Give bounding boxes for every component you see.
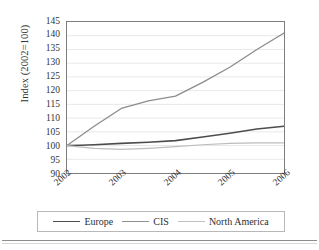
x-tick-label: 2003 [107,167,128,187]
page-divider [2,240,317,241]
x-tick-label: 2006 [271,167,292,187]
chart-figure: Index (2002=100) 14514013513012512011511… [0,0,319,250]
legend-label: CIS [153,216,169,227]
legend-item-cis[interactable]: CIS [122,216,169,227]
legend-line-swatch [178,221,205,222]
legend-label: Europe [84,216,113,227]
page-divider-shadow [2,243,317,244]
x-tick-label: 2004 [162,167,183,187]
legend-label: North America [209,216,269,227]
legend-item-europe[interactable]: Europe [53,216,113,227]
chart-legend: EuropeCISNorth America [37,211,285,232]
x-tick-label: 2005 [216,167,237,187]
legend-line-swatch [53,221,80,222]
x-tick-label: 2002 [52,167,73,187]
legend-item-north-america[interactable]: North America [178,216,269,227]
legend-line-swatch [122,221,149,222]
